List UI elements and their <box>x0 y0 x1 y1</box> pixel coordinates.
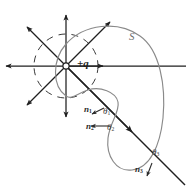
angle-label-theta2-sub: 2 <box>111 126 114 132</box>
point-charge-marker <box>63 63 69 69</box>
normal-label-n1: n1 <box>84 105 92 115</box>
normal-label-n1-sub: 1 <box>89 108 92 114</box>
physics-diagram-figure: +q S n1 θ1 n2 θ2 θ3 n3 <box>0 0 191 187</box>
angle-label-theta1-sub: 1 <box>107 110 110 116</box>
diagram-canvas <box>0 0 191 187</box>
normal-label-n3-sub: 3 <box>140 168 143 174</box>
angle-label-theta1: θ1 <box>103 107 110 117</box>
normal-label-n2-sub: 2 <box>91 125 94 131</box>
oblique-ray-down-right <box>66 66 185 185</box>
angle-label-theta3-sub: 3 <box>156 151 159 157</box>
normal-vector-n3 <box>147 163 152 176</box>
normal-label-n3: n3 <box>135 165 143 175</box>
angle-label-theta2: θ2 <box>107 123 114 133</box>
closed-surface-outline <box>56 26 164 170</box>
point-charge-label: +q <box>77 58 89 69</box>
angle-label-theta3: θ3 <box>152 148 159 158</box>
field-line-up-left <box>27 27 66 66</box>
normal-label-n2: n2 <box>86 122 94 132</box>
field-line-down-left <box>27 66 66 105</box>
surface-label: S <box>129 31 135 42</box>
